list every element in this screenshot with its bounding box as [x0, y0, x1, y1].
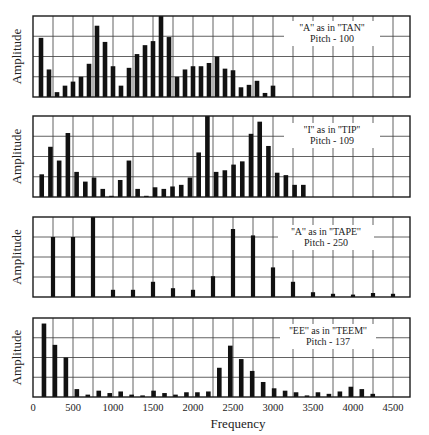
x-tick-label: 4500: [383, 402, 404, 413]
harmonic-bar: [91, 217, 95, 297]
harmonic-bar: [42, 324, 47, 397]
x-tick-label: 0: [30, 402, 35, 413]
spectrum-panel-1: ''A'' as in ''TAN''Pitch - 100Amplitude: [9, 16, 410, 97]
harmonic-bar: [211, 276, 215, 297]
harmonic-bar: [249, 134, 254, 197]
y-axis-label: Amplitude: [9, 329, 24, 385]
harmonic-bar: [360, 389, 365, 397]
harmonic-bar: [206, 391, 211, 397]
harmonic-bar: [349, 387, 354, 397]
harmonic-bar: [231, 229, 235, 297]
harmonic-bar: [151, 391, 156, 397]
x-axis-label: Frequency: [211, 416, 266, 431]
x-tick-label: 1500: [143, 402, 164, 413]
harmonic-bar: [71, 82, 76, 97]
y-axis-label: Amplitude: [9, 128, 24, 184]
harmonic-bar: [79, 77, 84, 97]
harmonic-bar: [66, 133, 71, 197]
harmonic-bar: [195, 392, 200, 397]
harmonic-bar: [75, 389, 80, 397]
harmonic-bar: [214, 172, 219, 197]
harmonic-bar: [223, 69, 228, 97]
harmonic-bar: [188, 178, 193, 197]
annotation-sound-label: ''I'' as in ''TIP'': [304, 124, 361, 135]
harmonic-bar: [39, 174, 44, 197]
harmonic-bar: [191, 66, 196, 97]
spectrum-panel-4: ''EE'' as in ''TEEM''Pitch - 137Amplitud…: [9, 318, 410, 397]
annotation-pitch-label: Pitch - 109: [310, 135, 354, 146]
harmonic-bar: [316, 392, 321, 397]
harmonic-bar: [251, 235, 255, 297]
harmonic-bar: [272, 388, 277, 397]
harmonic-bar: [311, 292, 315, 297]
harmonic-bar: [48, 147, 53, 197]
harmonic-bar: [100, 189, 105, 197]
harmonic-bar: [127, 68, 132, 97]
harmonic-bar: [196, 152, 201, 197]
harmonic-bar: [257, 122, 262, 197]
x-tick-label: 500: [65, 402, 81, 413]
harmonic-bar: [111, 290, 115, 297]
harmonic-bar: [127, 161, 132, 197]
harmonic-bar: [250, 371, 255, 397]
harmonic-bar: [87, 64, 92, 97]
harmonic-bar: [223, 170, 228, 197]
harmonic-bar: [338, 391, 343, 397]
harmonic-bar: [39, 38, 44, 97]
y-axis-label: Amplitude: [9, 28, 24, 84]
harmonic-bar: [95, 26, 100, 97]
harmonic-bar: [271, 267, 275, 297]
x-tick-label: 1000: [103, 402, 124, 413]
annotation-sound-label: ''A'' as in ''TAN'': [300, 22, 365, 33]
harmonic-bar: [55, 92, 60, 97]
harmonic-bar: [228, 346, 233, 397]
harmonic-bar: [167, 37, 172, 97]
harmonic-bar: [207, 63, 212, 97]
harmonic-bar: [111, 66, 116, 97]
x-tick-label: 2000: [183, 402, 204, 413]
harmonic-bar: [135, 54, 140, 97]
harmonic-bar: [57, 161, 62, 197]
x-tick-label: 3500: [303, 402, 324, 413]
harmonic-bar: [53, 345, 58, 397]
annotation-sound-label: ''EE'' as in ''TEEM'': [289, 325, 367, 336]
harmonic-bar: [96, 391, 101, 397]
harmonic-bar: [205, 116, 210, 197]
harmonic-bar: [179, 185, 184, 197]
harmonic-bar: [47, 69, 52, 97]
harmonic-bar: [153, 187, 158, 197]
harmonic-bar: [184, 392, 189, 397]
harmonic-bar: [301, 185, 306, 197]
harmonic-bar: [118, 180, 123, 197]
y-axis-label: Amplitude: [9, 229, 24, 285]
harmonic-bar: [217, 368, 222, 397]
harmonic-bar: [170, 186, 175, 197]
harmonic-bar: [63, 86, 68, 97]
harmonic-bar: [283, 391, 288, 397]
harmonic-bar: [275, 173, 280, 197]
harmonic-bar: [51, 237, 55, 297]
harmonic-bar: [162, 189, 167, 197]
harmonic-bar: [83, 182, 88, 197]
harmonic-bar: [151, 41, 156, 97]
harmonic-bar: [294, 392, 299, 397]
x-tick-label: 2500: [223, 402, 244, 413]
spectrum-panel-2: ''I'' as in ''TIP''Pitch - 109Amplitude: [9, 116, 410, 197]
harmonic-bar: [183, 69, 188, 97]
harmonic-bar: [143, 45, 148, 97]
harmonic-bar: [240, 161, 245, 197]
harmonic-bar: [261, 382, 266, 397]
x-tick-label: 4000: [343, 402, 364, 413]
harmonic-bar: [103, 42, 108, 97]
annotation-pitch-label: Pitch - 100: [310, 33, 354, 44]
harmonic-bar: [215, 57, 220, 98]
harmonic-bar: [191, 290, 195, 297]
harmonic-bar: [74, 172, 79, 197]
harmonic-bar: [231, 165, 236, 197]
spectrum-figure: ''A'' as in ''TAN''Pitch - 100Amplitude'…: [0, 0, 429, 435]
harmonic-bar: [135, 189, 140, 197]
harmonic-bar: [291, 282, 295, 297]
harmonic-bar: [292, 185, 297, 197]
harmonic-bar: [171, 288, 175, 297]
x-tick-label: 3000: [263, 402, 284, 413]
